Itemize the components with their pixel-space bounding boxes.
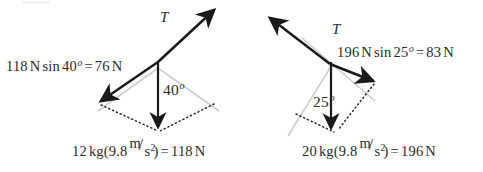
scan-artifact [22, 1, 50, 4]
left-weight-result-unit: N [195, 143, 206, 159]
left-sin-function: sin [42, 58, 60, 74]
right-mass-unit: kg [319, 143, 334, 159]
left-weight-equals-sign: = [161, 143, 169, 159]
left-angle-value: 40 [62, 58, 77, 74]
right-diagram [270, 18, 375, 136]
left-dotted-line-a [101, 105, 158, 131]
left-angle-number: 40 [163, 81, 179, 98]
left-accel-denominator: s2 [145, 142, 156, 160]
right-angle-degree-symbol: o [329, 92, 334, 103]
left-result-unit: N [112, 58, 123, 74]
right-accel-exponent: 2 [380, 142, 385, 153]
right-weight-equals-sign: = [391, 143, 399, 159]
left-mass-value: 12 [72, 143, 87, 159]
left-force-unit: N [30, 58, 41, 74]
left-angle-label: 40o [163, 80, 185, 99]
right-tension-arrow [270, 18, 330, 64]
left-degree-symbol: o [77, 57, 82, 68]
left-accel-slash: / [139, 136, 144, 155]
left-weight-equation: 12kg(9.8m/s2)=118N [72, 141, 205, 160]
right-weight-result-unit: N [425, 143, 436, 159]
right-equals-sign: = [416, 44, 424, 60]
left-component-equation: 118Nsin40o=76N [6, 57, 122, 75]
right-tension-label: T [332, 21, 341, 38]
left-mass-unit: kg [89, 143, 104, 159]
right-dotted-line-a [338, 84, 374, 130]
right-result-unit: N [443, 44, 454, 60]
left-weight-result: 118 [171, 143, 193, 159]
right-dotted-line-b [296, 114, 334, 132]
left-angle-degree-symbol: o [179, 80, 184, 91]
right-weight-result: 196 [401, 143, 423, 159]
left-dotted-line-b [160, 104, 214, 131]
right-weight-equation: 20kg(9.8m/s2)=196N [302, 141, 436, 160]
right-angle-number: 25 [313, 93, 329, 110]
right-degree-symbol: o [409, 43, 414, 54]
right-accel-denominator: s2 [375, 142, 386, 160]
right-force-unit: N [361, 44, 372, 60]
left-tension-label: T [160, 9, 169, 26]
left-force-value: 118 [6, 58, 28, 74]
left-accel-unit-fraction: m/s2 [130, 141, 154, 156]
right-gravity-value: 9.8 [339, 143, 358, 159]
right-component-arrow [330, 64, 373, 81]
right-angle-label: 25o [313, 92, 335, 111]
right-component-equation: 196Nsin25o=83N [337, 43, 454, 61]
right-sin-function: sin [374, 44, 392, 60]
right-accel-unit-fraction: m/s2 [360, 141, 384, 156]
left-equals-sign: = [84, 58, 92, 74]
left-gravity-value: 9.8 [109, 143, 128, 159]
right-mass-value: 20 [302, 143, 317, 159]
right-accel-slash: / [369, 136, 374, 155]
right-result-value: 83 [426, 44, 441, 60]
left-accel-exponent: 2 [150, 142, 155, 153]
left-result-value: 76 [95, 58, 110, 74]
right-angle-value: 25 [394, 44, 409, 60]
right-force-value: 196 [337, 44, 359, 60]
